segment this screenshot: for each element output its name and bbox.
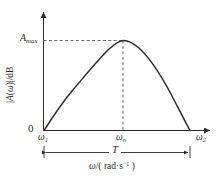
magnitude-response-curve bbox=[44, 40, 190, 130]
span-label-T: T bbox=[109, 145, 121, 156]
omega1-subscript: 1 bbox=[45, 136, 48, 143]
x-tick-label-omegan: ωn bbox=[116, 133, 126, 143]
amax-subscript: max bbox=[26, 37, 37, 44]
x-title-units-close: ) bbox=[129, 161, 135, 171]
omegan-subscript: n bbox=[123, 136, 126, 143]
x-tick-label-omega2: ω2 bbox=[196, 133, 206, 143]
y-title-function: A bbox=[5, 95, 15, 101]
x-axis-title: ω/( rad·s−1 ) bbox=[0, 161, 224, 171]
y-title-tail: )|/dB bbox=[5, 67, 15, 86]
y-title-bar-open: | bbox=[5, 101, 15, 103]
omegan-symbol: ω bbox=[116, 132, 123, 142]
frequency-response-figure: Amax 0 |A(ω)|/dB ω1 ωn ω2 T ω/( rad·s−1 … bbox=[0, 0, 224, 178]
y-title-paren-open: ( bbox=[5, 92, 15, 95]
y-title-omega: ω bbox=[5, 85, 15, 92]
x-title-units-open: /( rad·s bbox=[96, 161, 123, 171]
y-origin-label: 0 bbox=[28, 123, 34, 134]
x-tick-label-omega1: ω1 bbox=[38, 133, 48, 143]
omega2-symbol: ω bbox=[196, 132, 203, 142]
amax-axis-label: Amax bbox=[20, 33, 37, 44]
omega1-symbol: ω bbox=[38, 132, 45, 142]
x-title-omega: ω bbox=[89, 161, 96, 171]
omega2-subscript: 2 bbox=[203, 136, 206, 143]
y-axis-title: |A(ω)|/dB bbox=[6, 52, 16, 118]
